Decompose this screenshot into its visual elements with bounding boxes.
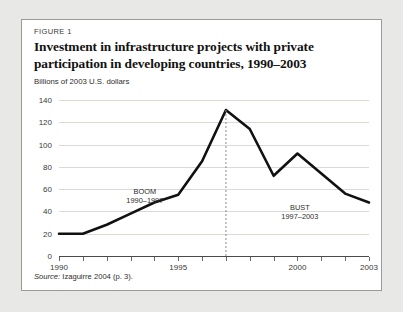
source-text: Izaguirre 2004 (p. 3). <box>60 272 133 281</box>
source-prefix: Source: <box>34 272 60 281</box>
annotation-range: 1997–2003 <box>281 212 318 222</box>
figure-title: Investment in infrastructure projects wi… <box>34 39 369 72</box>
annotation-title: BUST <box>281 203 318 213</box>
figure-number-label: FIGURE 1 <box>34 27 72 36</box>
y-axis-unit-label: Billions of 2003 U.S. dollars <box>34 77 129 86</box>
chart-annotation: BOOM1990–1997 <box>126 187 163 206</box>
figure-card: FIGURE 1 Investment in infrastructure pr… <box>21 19 382 291</box>
chart-annotation: BUST1997–2003 <box>281 203 318 222</box>
source-note: Source: Izaguirre 2004 (p. 3). <box>34 272 133 281</box>
line-series-investment <box>22 88 381 268</box>
annotation-title: BOOM <box>126 187 163 197</box>
annotation-range: 1990–1997 <box>126 196 163 206</box>
chart-plot-area: 140120100806040200 1990199520002003 BOOM… <box>22 88 381 268</box>
